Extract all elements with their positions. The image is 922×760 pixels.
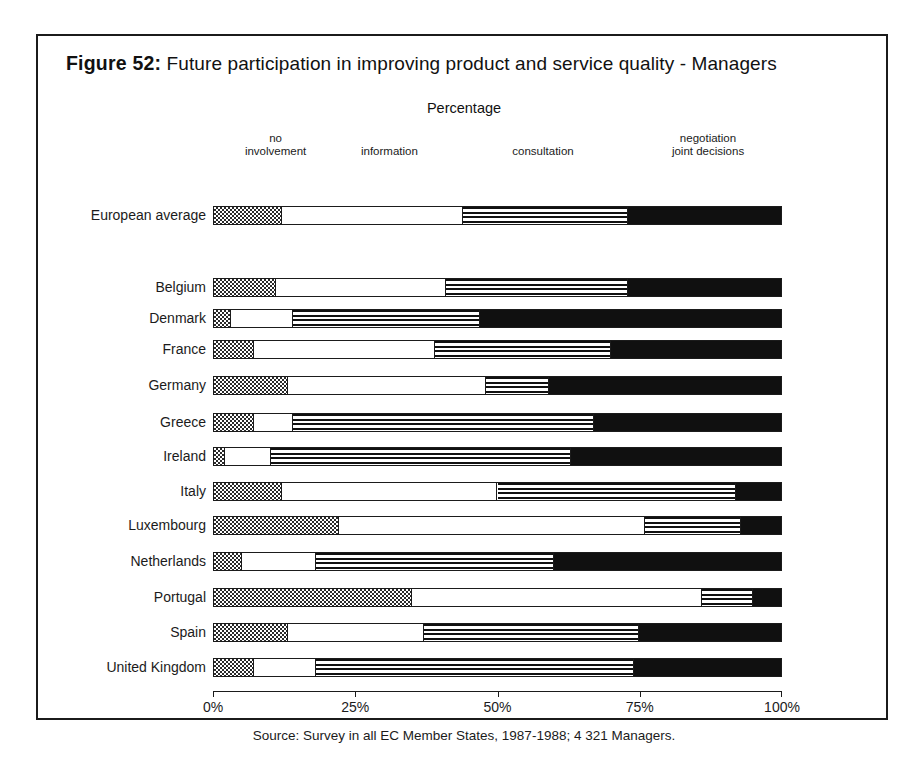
- row-label: Portugal: [38, 586, 206, 608]
- segment-no-involvement: [214, 310, 231, 327]
- row-label: Denmark: [38, 307, 206, 329]
- segment-negotiation: [571, 448, 781, 465]
- segment-information: [254, 414, 294, 431]
- segment-information: [339, 517, 645, 534]
- bar-row: Denmark: [38, 307, 782, 329]
- chart-legend: noinvolvementinformationconsultationnego…: [213, 132, 782, 166]
- segment-information: [254, 659, 316, 676]
- legend-item: consultation: [512, 145, 573, 158]
- segment-negotiation: [741, 517, 781, 534]
- segment-information: [254, 341, 435, 358]
- segment-no-involvement: [214, 624, 288, 641]
- segment-negotiation: [736, 483, 781, 500]
- stacked-bar: [213, 588, 782, 607]
- bar-row: European average: [38, 204, 782, 226]
- bar-row: Belgium: [38, 276, 782, 298]
- stacked-bar: [213, 376, 782, 395]
- bar-row: United Kingdom: [38, 656, 782, 678]
- bar-row: Ireland: [38, 445, 782, 467]
- segment-consultation: [446, 279, 627, 296]
- segment-information: [412, 589, 701, 606]
- stacked-bar: [213, 516, 782, 535]
- segment-information: [282, 483, 497, 500]
- segment-no-involvement: [214, 279, 276, 296]
- segment-no-involvement: [214, 517, 339, 534]
- stacked-bar: [213, 623, 782, 642]
- legend-item: noinvolvement: [245, 132, 306, 157]
- segment-no-involvement: [214, 659, 254, 676]
- axis-tick-label: 25%: [341, 699, 369, 715]
- segment-information: [242, 553, 316, 570]
- segment-consultation: [293, 310, 480, 327]
- segment-consultation: [486, 377, 548, 394]
- segment-consultation: [316, 659, 634, 676]
- stacked-bar: [213, 552, 782, 571]
- segment-consultation: [435, 341, 611, 358]
- x-axis: 0%25%50%75%100%: [213, 691, 782, 692]
- segment-negotiation: [554, 553, 781, 570]
- segment-no-involvement: [214, 553, 242, 570]
- row-label: European average: [38, 204, 206, 226]
- legend-label: information: [361, 145, 418, 158]
- segment-information: [225, 448, 270, 465]
- plot-area: noinvolvementinformationconsultationnego…: [213, 36, 782, 718]
- legend-label: no: [245, 132, 306, 145]
- stacked-bar: [213, 413, 782, 432]
- segment-information: [276, 279, 446, 296]
- axis-tick-label: 0%: [203, 699, 223, 715]
- segment-no-involvement: [214, 377, 288, 394]
- legend-item: information: [361, 145, 418, 158]
- segment-no-involvement: [214, 483, 282, 500]
- axis-tick: [781, 691, 782, 697]
- bar-row: Netherlands: [38, 550, 782, 572]
- figure-frame: Figure 52: Future participation in impro…: [36, 34, 888, 720]
- segment-consultation: [316, 553, 554, 570]
- segment-consultation: [271, 448, 572, 465]
- segment-no-involvement: [214, 589, 412, 606]
- segment-information: [288, 377, 486, 394]
- segment-no-involvement: [214, 207, 282, 224]
- row-label: Greece: [38, 411, 206, 433]
- row-label: Ireland: [38, 445, 206, 467]
- segment-consultation: [645, 517, 741, 534]
- segment-negotiation: [753, 589, 781, 606]
- row-label: Netherlands: [38, 550, 206, 572]
- axis-tick: [213, 691, 214, 697]
- bar-row: France: [38, 338, 782, 360]
- figure-number: Figure 52:: [66, 52, 161, 74]
- bar-row: Greece: [38, 411, 782, 433]
- row-label: Spain: [38, 621, 206, 643]
- segment-no-involvement: [214, 341, 254, 358]
- bar-row: Luxembourg: [38, 514, 782, 536]
- axis-tick-label: 100%: [764, 699, 800, 715]
- segment-no-involvement: [214, 414, 254, 431]
- segment-consultation: [424, 624, 639, 641]
- segment-consultation: [498, 483, 736, 500]
- segment-consultation: [463, 207, 627, 224]
- legend-label: consultation: [512, 145, 573, 158]
- row-label: Belgium: [38, 276, 206, 298]
- bar-row: Italy: [38, 480, 782, 502]
- segment-negotiation: [594, 414, 781, 431]
- legend-label: involvement: [245, 145, 306, 158]
- source-note: Source: Survey in all EC Member States, …: [38, 728, 890, 743]
- axis-tick-label: 50%: [483, 699, 511, 715]
- stacked-bar: [213, 309, 782, 328]
- segment-negotiation: [611, 341, 781, 358]
- segment-information: [288, 624, 424, 641]
- segment-information: [282, 207, 463, 224]
- axis-tick: [355, 691, 356, 697]
- row-label: Germany: [38, 374, 206, 396]
- row-label: United Kingdom: [38, 656, 206, 678]
- stacked-bar: [213, 206, 782, 225]
- legend-label: negotiation: [672, 132, 744, 145]
- stacked-bar: [213, 482, 782, 501]
- axis-tick: [498, 691, 499, 697]
- segment-negotiation: [639, 624, 781, 641]
- bar-row: Germany: [38, 374, 782, 396]
- segment-information: [231, 310, 293, 327]
- stacked-bar: [213, 340, 782, 359]
- axis-tick-label: 75%: [626, 699, 654, 715]
- segment-negotiation: [549, 377, 781, 394]
- bar-row: Spain: [38, 621, 782, 643]
